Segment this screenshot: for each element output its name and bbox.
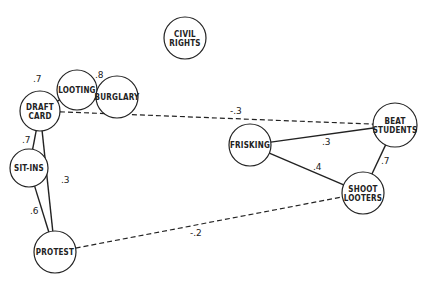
node-label: RIGHTS	[169, 39, 200, 48]
node-burglary: BURGLARY	[95, 76, 140, 118]
node-beat-students: BEATSTUDENTS	[373, 103, 418, 147]
edge-weight-label: -.2	[190, 228, 202, 238]
edge-draft-card-to-sit-ins	[33, 131, 37, 150]
node-label: SIT-INS	[14, 164, 44, 173]
node-draft-card: DRAFTCARD	[20, 91, 60, 131]
node-label: BEAT	[384, 117, 405, 126]
edge-weight-label: .7	[22, 135, 31, 145]
node-label: SHOOT	[348, 185, 377, 194]
edge-protest-to-shoot-looters	[76, 197, 343, 248]
edge-weight-label: .7	[33, 74, 42, 84]
edge-weight-label: .7	[381, 156, 390, 166]
node-civil-rights: CIVILRIGHTS	[164, 17, 206, 59]
edge-weight-label: .3	[322, 137, 331, 147]
edge-weight-label: .8	[95, 70, 104, 80]
node-label: CIVIL	[174, 30, 196, 39]
node-label: LOOTERS	[344, 194, 383, 203]
node-label: DRAFT	[26, 103, 54, 112]
node-label: FRISKING	[230, 141, 270, 150]
node-sit-ins: SIT-INS	[10, 149, 48, 187]
node-shoot-looters: SHOOTLOOTERS	[342, 172, 384, 214]
node-protest: PROTEST	[34, 231, 76, 273]
node-label: BURGLARY	[95, 93, 140, 102]
node-label: STUDENTS	[373, 126, 418, 135]
edge-weight-label: .4	[313, 162, 322, 172]
edge-frisking-to-shoot-looters	[269, 153, 343, 185]
diagram-canvas: CIVILRIGHTSLOOTINGBURGLARYDRAFTCARDSIT-I…	[0, 0, 431, 286]
node-label: CARD	[28, 112, 51, 121]
edge-weight-label: -.3	[230, 106, 242, 116]
edge-weight-label: .3	[61, 175, 70, 185]
edge-weight-label: .6	[30, 206, 39, 216]
node-label: LOOTING	[58, 86, 95, 95]
node-frisking: FRISKING	[229, 124, 271, 166]
node-label: PROTEST	[36, 248, 74, 257]
nodes-layer: CIVILRIGHTSLOOTINGBURGLARYDRAFTCARDSIT-I…	[10, 17, 417, 273]
correlation-diagram: CIVILRIGHTSLOOTINGBURGLARYDRAFTCARDSIT-I…	[0, 0, 431, 286]
edges-layer	[33, 93, 386, 248]
node-looting: LOOTING	[57, 70, 97, 110]
